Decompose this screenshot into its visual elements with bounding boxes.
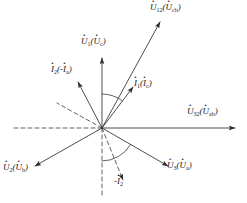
upper-angle-arc: [102, 94, 123, 101]
label-i1-sub: 1: [137, 83, 140, 89]
phasor-vector-graphic: [0, 0, 247, 203]
label-i1-alt-sub: c: [146, 83, 149, 89]
label-negative-i2: -I2: [114, 177, 123, 186]
label-negative-i2-sub: 2: [120, 181, 123, 187]
label-u3: U3(Ua): [167, 161, 192, 170]
label-u3-sub: 3: [174, 165, 177, 171]
label-u32: U32(Uab): [187, 107, 218, 116]
vector-i1: [102, 87, 133, 128]
label-u32-sub: 32: [194, 111, 200, 117]
label-u12-alt-sub: cb: [172, 7, 178, 13]
label-u12-sub: 12: [157, 7, 163, 13]
label-i2: I2(-Ia): [51, 65, 72, 74]
phasor-diagram-canvas: U12(Ucb) U1(Uc) I2(-Ia) I1(Ic) U32(Uab) …: [0, 0, 247, 203]
vector-u2: [35, 128, 102, 166]
label-u2: U2(Ub): [3, 163, 28, 172]
label-u2-alt-sub: b: [22, 167, 25, 173]
label-i1: I1(Ic): [134, 79, 152, 88]
vector-u12: [102, 22, 160, 128]
lower-angle-arc: [102, 145, 131, 162]
label-u12: U12(Ucb): [150, 3, 181, 12]
label-u32-alt-sub: ab: [209, 111, 215, 117]
label-u1-alt-sub: c: [100, 41, 103, 47]
vector-u3: [102, 128, 168, 166]
label-i2-sub: 2: [54, 69, 57, 75]
label-u1: U1(Uc): [81, 37, 106, 46]
label-i2-alt-sub: a: [66, 69, 69, 75]
label-u2-sub: 2: [10, 167, 13, 173]
label-u1-sub: 1: [88, 41, 91, 47]
label-u3-alt-sub: a: [186, 165, 189, 171]
